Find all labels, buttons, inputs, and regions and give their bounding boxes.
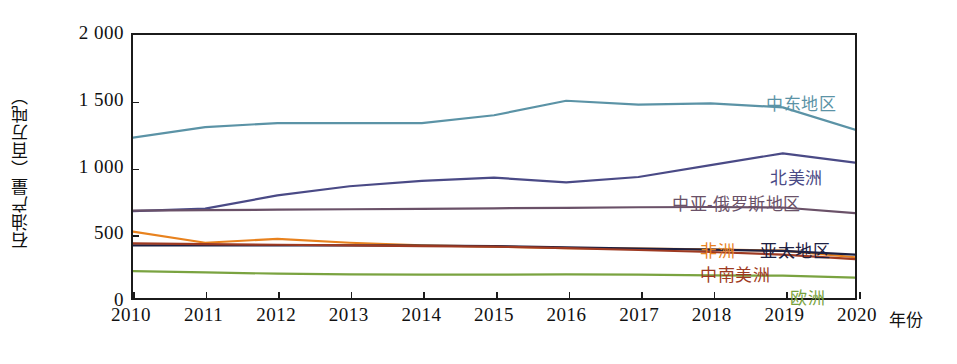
x-axis-tick-labels: 2010201120122013201420152016201720182019… <box>0 304 957 344</box>
x-tick-label: 2010 <box>111 304 151 326</box>
x-tick-mark <box>496 292 498 299</box>
series-label-1: 北美洲 <box>770 170 823 187</box>
y-tick-label: 2 000 <box>56 22 124 44</box>
plot-area <box>131 33 857 300</box>
y-tick-label: 500 <box>56 222 124 244</box>
x-tick-label: 2019 <box>764 304 804 326</box>
x-tick-mark <box>133 292 135 299</box>
x-tick-mark <box>569 292 571 299</box>
x-tick-label: 2016 <box>547 304 587 326</box>
series-label-3: 非洲 <box>700 243 735 260</box>
series-label-2: 中亚-俄罗斯地区 <box>672 196 801 213</box>
x-tick-label: 2013 <box>329 304 369 326</box>
x-tick-label: 2018 <box>692 304 732 326</box>
series-lines <box>133 35 855 298</box>
y-axis-title: 石油产量（百万吨） <box>6 48 36 288</box>
x-tick-label: 2015 <box>474 304 514 326</box>
x-tick-label: 2012 <box>256 304 296 326</box>
x-tick-label: 2014 <box>401 304 441 326</box>
x-tick-mark <box>641 292 643 299</box>
y-tick-mark <box>132 235 139 237</box>
series-label-0: 中东地区 <box>766 96 836 113</box>
series-label-5: 中南美洲 <box>700 267 770 284</box>
y-tick-mark <box>132 102 139 104</box>
y-tick-label: 1 500 <box>56 89 124 111</box>
x-tick-mark <box>206 292 208 299</box>
x-tick-label: 2011 <box>184 304 223 326</box>
series-line-0 <box>133 101 855 138</box>
x-tick-mark <box>786 292 788 299</box>
x-tick-label: 2020 <box>837 304 877 326</box>
x-tick-mark <box>278 292 280 299</box>
x-tick-mark <box>859 292 861 299</box>
x-tick-mark <box>351 292 353 299</box>
x-tick-mark <box>714 292 716 299</box>
oil-production-line-chart: 石油产量（百万吨） 05001 0001 5002 000 中东地区北美洲中亚-… <box>0 0 957 364</box>
x-axis-title: 年份 <box>889 306 923 331</box>
x-tick-label: 2017 <box>619 304 659 326</box>
series-label-4: 亚太地区 <box>760 243 830 260</box>
y-tick-label: 1 000 <box>56 156 124 178</box>
y-tick-mark <box>132 169 139 171</box>
x-tick-mark <box>423 292 425 299</box>
